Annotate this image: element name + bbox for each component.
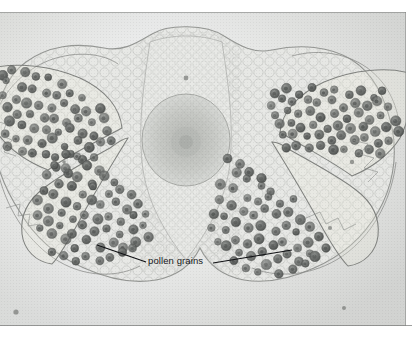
pollen-grain-core: [92, 135, 95, 138]
pollen-grain-core: [38, 227, 41, 230]
pollen-grain-core: [274, 212, 278, 216]
pollen-grain-core: [98, 246, 102, 250]
pollen-grain-core: [330, 98, 333, 101]
pollen-grain-core: [379, 114, 382, 117]
pollen-grain-core: [225, 157, 229, 161]
pollen-grain-core: [50, 136, 54, 140]
pollen-grain-core: [112, 181, 115, 184]
pollen-grain-core: [30, 87, 33, 90]
pollen-grain-core: [252, 214, 255, 217]
pollen-grain-core: [46, 219, 50, 223]
pollen-grain-core: [68, 92, 71, 95]
pollen-grain-core: [57, 182, 61, 186]
pollen-grain-core: [35, 214, 39, 218]
pollen-grain-core: [348, 127, 352, 131]
pollen-grain-core: [378, 152, 382, 156]
pollen-grain-core: [136, 202, 140, 206]
pollen-grain-core: [20, 86, 24, 90]
pollen-grain-core: [211, 212, 215, 216]
pollen-grain-core: [273, 114, 276, 117]
pollen-grain-core: [308, 109, 312, 113]
pollen-grain-core: [330, 139, 333, 142]
pollen-grain-core: [312, 255, 316, 259]
pollen-grain-core: [69, 184, 73, 188]
pollen-grain-core: [40, 142, 43, 145]
pollen-grain-core: [294, 231, 297, 234]
pollen-grain-core: [232, 259, 235, 262]
pollen-grain-core: [106, 215, 109, 218]
pollen-grain-core: [80, 132, 84, 136]
pollen-grain-core: [9, 68, 12, 71]
pollen-grain-core: [98, 140, 102, 144]
pollen-grain-core: [269, 104, 272, 107]
pollen-grain-core: [97, 169, 101, 173]
pollen-grain-core: [347, 93, 350, 96]
pollen-grain-core: [375, 99, 379, 103]
pollen-grain-core: [384, 125, 388, 129]
pollen-grain-core: [292, 198, 295, 201]
pollen-grain-core: [87, 146, 91, 150]
pollen-grain-core: [105, 129, 109, 133]
pollen-grain-core: [238, 162, 242, 166]
pollen-grain-core: [260, 185, 263, 188]
pollen-grain-core: [306, 240, 310, 244]
pollen-grain-core: [286, 210, 290, 214]
pollen-grain-core: [318, 144, 321, 147]
pollen-grain-core: [322, 91, 325, 94]
pollen-grain-core: [335, 124, 339, 128]
pollen-grain-core: [297, 260, 301, 264]
pollen-grain-core: [119, 220, 122, 223]
pollen-grain-core: [4, 79, 7, 82]
pollen-grain-core: [256, 237, 260, 241]
pollen-grain-core: [125, 208, 129, 212]
pollen-grain-core: [76, 117, 79, 120]
pollen-grain-core: [285, 252, 288, 255]
pollen-grain-core: [259, 177, 263, 181]
pollen-grain-core: [296, 112, 299, 115]
pollen-grain-core: [76, 139, 79, 142]
pollen-grain-core: [92, 156, 95, 159]
pollen-grain-core: [365, 104, 369, 108]
pollen-grain-core: [32, 127, 36, 131]
pollen-grain-core: [84, 255, 87, 258]
pollen-grain-core: [118, 233, 121, 236]
pollen-grain-core: [52, 164, 55, 167]
pollen-grain-core: [73, 108, 77, 112]
plate-top-edge: [0, 12, 406, 13]
pollen-grain-core: [332, 112, 335, 115]
pollen-grain-core: [75, 175, 79, 179]
pollen-grain-core: [362, 136, 365, 139]
pollen-grain-core: [60, 211, 63, 214]
pollen-grain-core: [95, 217, 99, 221]
pollen-grain-core: [62, 102, 65, 105]
pollen-grain-core: [42, 116, 46, 120]
pollen-grain-core: [231, 187, 235, 191]
pollen-grain-core: [345, 117, 348, 120]
pollen-grain-core: [144, 213, 147, 216]
pollen-grain-core: [0, 73, 4, 77]
pollen-grain-core: [108, 256, 111, 259]
pollen-grain-core: [307, 225, 311, 229]
pollen-grain-core: [30, 152, 33, 155]
micrograph-plate: [0, 12, 406, 326]
pollen-grain-core: [71, 218, 74, 221]
pollen-grain-core: [234, 171, 238, 175]
pollen-grain-core: [57, 131, 60, 134]
pollen-grain-core: [224, 229, 227, 232]
pollen-grain-core: [82, 214, 85, 217]
pollen-grain-core: [105, 227, 108, 230]
pollen-grain-core: [357, 152, 360, 155]
pollen-grain-core: [129, 193, 133, 197]
anther-cross-section-specimen: [0, 12, 406, 326]
pollen-grain-core: [274, 230, 277, 233]
pollen-grain-core: [256, 200, 259, 203]
pollen-grain-core: [306, 98, 309, 101]
pollen-grain-core: [80, 158, 84, 162]
plate-right-edge: [405, 12, 406, 326]
pollen-grain-core: [80, 223, 84, 227]
pollen-grain-core: [317, 133, 321, 137]
pollen-grain-core: [44, 128, 47, 131]
pollen-grain-core: [315, 101, 318, 104]
pollen-grain-core: [263, 207, 266, 210]
pollen-grain-core: [331, 148, 335, 152]
